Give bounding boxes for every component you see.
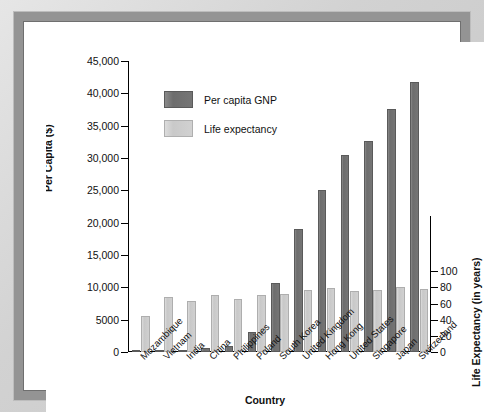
y-axis-left-tick xyxy=(121,158,128,159)
y-axis-left-tick-label: 20,000 xyxy=(49,218,119,229)
y-axis-left-tick xyxy=(121,61,128,62)
bar-per-capita-gnp xyxy=(364,141,373,352)
bar-group xyxy=(315,61,338,352)
y-axis-left-tick-label: 15,000 xyxy=(49,250,119,261)
plot-area: 0500010,00015,00020,00025,00030,00035,00… xyxy=(128,61,431,352)
y-axis-right-tick-label: 60 xyxy=(440,299,480,310)
bar-group xyxy=(292,61,315,352)
y-axis-left-tick xyxy=(121,255,128,256)
y-axis-right-tick-label: 100 xyxy=(440,266,480,277)
y-axis-left-tick-label: 5000 xyxy=(49,315,119,326)
image-frame: Per Capita ($) Life Expectancy (in years… xyxy=(0,0,484,412)
bar-group xyxy=(222,61,245,352)
y-axis-left-tick xyxy=(121,223,128,224)
chart-canvas: Per Capita ($) Life Expectancy (in years… xyxy=(46,42,484,412)
bar-group xyxy=(129,61,152,352)
bar-group xyxy=(152,61,175,352)
bar-group xyxy=(385,61,408,352)
y-axis-left-tick-label: 30,000 xyxy=(49,153,119,164)
bar-per-capita-gnp xyxy=(410,82,419,352)
y-axis-right-tick-label: 80 xyxy=(440,282,480,293)
y-axis-right-tick xyxy=(431,271,438,272)
y-axis-left-tick xyxy=(121,190,128,191)
y-axis-right-tick xyxy=(431,287,438,288)
y-axis-left-tick xyxy=(121,126,128,127)
bar-group xyxy=(199,61,222,352)
y-axis-right-tick xyxy=(431,304,438,305)
chart-bevel-border: Per Capita ($) Life Expectancy (in years… xyxy=(14,12,470,400)
bar-group xyxy=(175,61,198,352)
bar-group xyxy=(268,61,291,352)
bar-series-group xyxy=(129,61,431,352)
y-axis-left-tick-label: 0 xyxy=(49,347,119,358)
y-axis-left-tick-label: 45,000 xyxy=(49,56,119,67)
y-axis-left-tick-label: 35,000 xyxy=(49,121,119,132)
y-axis-left-tick-label: 10,000 xyxy=(49,282,119,293)
y-axis-right-tick-label: 0 xyxy=(440,347,480,358)
bar-group xyxy=(408,61,431,352)
y-axis-left-tick xyxy=(121,287,128,288)
y-axis-left-tick xyxy=(121,320,128,321)
x-axis-category-labels: MozambiqueVietnamIndiaChinaPhilippinesPo… xyxy=(128,354,431,412)
y-axis-right-tick xyxy=(431,320,438,321)
y-axis-left-tick xyxy=(121,352,128,353)
bar-group xyxy=(361,61,384,352)
y-axis-left-tick-label: 40,000 xyxy=(49,88,119,99)
y-axis-left-tick-label: 25,000 xyxy=(49,185,119,196)
bar-group xyxy=(245,61,268,352)
y-axis-left-tick xyxy=(121,93,128,94)
